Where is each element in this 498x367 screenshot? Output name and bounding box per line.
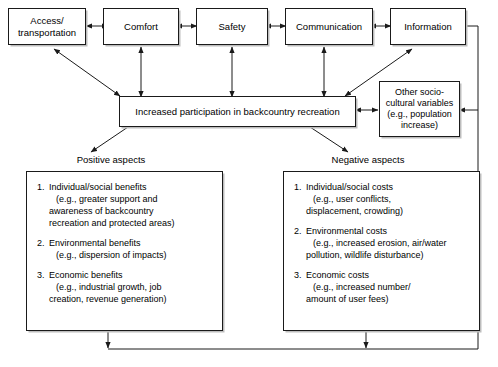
branch-label-negative: Negative aspects [303,154,433,165]
item-title: Environmental benefits [49,238,141,248]
list-item: 3. Economic benefits (e.g., industrial g… [37,269,214,305]
diagram-canvas: Access/ transportation Comfort Safety Co… [0,0,498,367]
list-item: 1. Individual/social benefits (e.g., gre… [37,181,214,229]
item-title: Individual/social costs [306,182,393,192]
list-item: 1. Individual/social costs (e.g., user c… [294,181,471,217]
node-increased-participation[interactable]: Increased participation in backcountry r… [119,96,356,127]
node-communication[interactable]: Communication [285,8,373,45]
negative-aspects-box[interactable]: 1. Individual/social costs (e.g., user c… [283,171,480,331]
node-safety[interactable]: Safety [196,8,268,45]
item-detail: (e.g., dispersion of impacts) [49,250,167,260]
item-title: Individual/social benefits [49,182,147,192]
node-label: Comfort [124,21,158,32]
item-number: 2. [294,225,306,261]
item-number: 2. [37,237,49,261]
node-label: Increased participation in backcountry r… [135,106,339,117]
node-label: Information [404,21,452,32]
item-title: Economic costs [306,270,369,280]
node-label: Safety [219,21,246,32]
item-number: 1. [294,181,306,217]
node-comfort[interactable]: Comfort [103,8,179,45]
item-detail: (e.g., increased erosion, air/water poll… [306,238,447,260]
node-other-sociocultural-variables[interactable]: Other socio- cultural variables (e.g., p… [379,81,460,137]
branch-label-positive: Positive aspects [46,154,176,165]
node-access-transportation[interactable]: Access/ transportation [8,8,86,45]
item-detail: (e.g., user conflicts, displacement, cro… [306,194,403,216]
item-title: Environmental costs [306,226,387,236]
node-label: Other socio- cultural variables (e.g., p… [386,87,454,131]
item-detail: (e.g., industrial growth, job creation, … [49,282,167,304]
item-number: 3. [294,269,306,305]
item-number: 1. [37,181,49,229]
item-title: Economic benefits [49,270,123,280]
list-item: 2. Environmental benefits (e.g., dispers… [37,237,214,261]
item-detail: (e.g., greater support and awareness of … [49,194,175,228]
list-item: 2. Environmental costs (e.g., increased … [294,225,471,261]
node-label: Communication [296,21,362,32]
node-label: Access/ transportation [18,15,76,37]
list-item: 3. Economic costs (e.g., increased numbe… [294,269,471,305]
node-information[interactable]: Information [390,8,466,45]
item-detail: (e.g., increased number/ amount of user … [306,282,411,304]
positive-aspects-box[interactable]: 1. Individual/social benefits (e.g., gre… [26,171,223,331]
item-number: 3. [37,269,49,305]
